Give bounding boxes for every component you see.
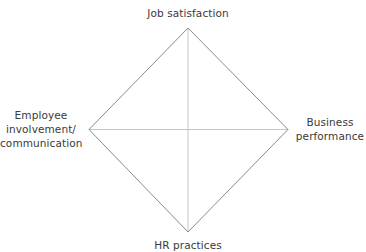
vertex-label-employee-involvement: Employee involvement/ communication — [0, 108, 82, 150]
vertex-label-job-satisfaction: Job satisfaction — [0, 6, 366, 20]
vertex-label-hr-practices: HR practices — [0, 238, 366, 252]
vertex-label-business-performance: Business performance — [290, 115, 366, 143]
label-line: Business — [290, 115, 366, 129]
label-line: communication — [0, 136, 82, 150]
label-line: performance — [290, 129, 366, 143]
label-line: Employee — [0, 108, 82, 122]
label-line: involvement/ — [0, 122, 82, 136]
